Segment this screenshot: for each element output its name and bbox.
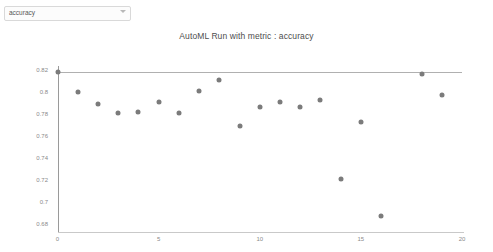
data-point[interactable] <box>257 105 262 110</box>
data-point[interactable] <box>197 88 202 93</box>
y-tick-label: 0.8 <box>14 89 48 95</box>
y-tick-label: 0.76 <box>14 133 48 139</box>
x-tick-label: 5 <box>149 236 169 242</box>
y-tick-label: 0.82 <box>14 67 48 73</box>
data-point[interactable] <box>439 93 444 98</box>
data-point[interactable] <box>55 70 60 75</box>
data-point[interactable] <box>95 102 100 107</box>
x-tick-label: 10 <box>250 236 270 242</box>
scatter-plot: 0.680.70.720.740.760.780.80.82 05101520 <box>0 0 493 252</box>
data-point[interactable] <box>176 110 181 115</box>
data-point[interactable] <box>75 90 80 95</box>
y-tick-label: 0.68 <box>14 221 48 227</box>
y-tick-label: 0.7 <box>14 199 48 205</box>
data-point[interactable] <box>277 99 282 104</box>
y-tick-label: 0.72 <box>14 177 48 183</box>
x-tick-label: 15 <box>351 236 371 242</box>
data-point[interactable] <box>136 109 141 114</box>
data-point[interactable] <box>358 119 363 124</box>
data-point[interactable] <box>419 71 424 76</box>
data-point[interactable] <box>298 105 303 110</box>
y-axis-line <box>58 66 59 232</box>
data-point[interactable] <box>318 97 323 102</box>
y-tick-label: 0.78 <box>14 111 48 117</box>
y-tick-label: 0.74 <box>14 155 48 161</box>
x-axis-line <box>58 232 465 233</box>
x-tick-label: 20 <box>452 236 472 242</box>
data-point[interactable] <box>338 176 343 181</box>
data-point[interactable] <box>237 124 242 129</box>
data-point[interactable] <box>156 99 161 104</box>
best-metric-line <box>58 72 463 73</box>
x-tick-label: 0 <box>48 236 68 242</box>
data-point[interactable] <box>217 77 222 82</box>
data-point[interactable] <box>116 110 121 115</box>
data-point[interactable] <box>379 214 384 219</box>
